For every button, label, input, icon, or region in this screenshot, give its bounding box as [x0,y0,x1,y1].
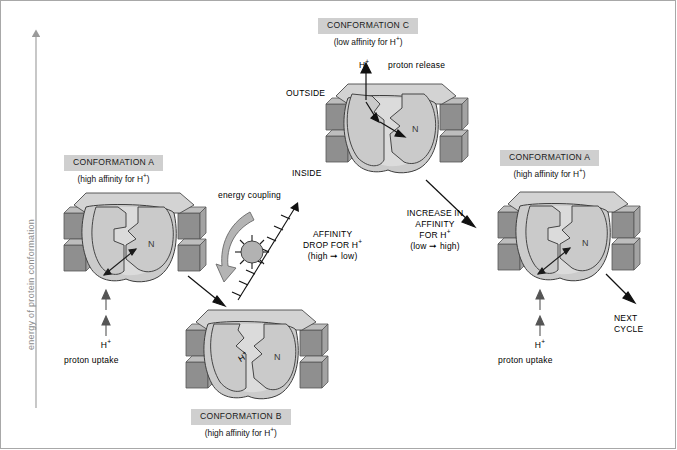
gear-icon [235,235,269,269]
next-cycle-line1: NEXT [614,313,643,324]
binding-site-label: N [274,352,281,362]
arrow-b-to-c [292,195,322,219]
energy-axis-label: energy of protein conformation [26,219,36,350]
proton-charge: + [541,338,545,345]
conformation-c-protein: N [318,74,478,192]
proton-uptake-arrows-right [530,288,550,340]
subtitle-text: (high affinity for H [514,169,579,179]
affinity-increase-text: FOR H [419,230,446,240]
membrane-right [300,324,328,388]
proton-release-caption: proton release [388,60,445,70]
conformation-b-label: CONFORMATION B (high affinity for H+) [191,409,291,438]
conformation-b-subtitle: (high affinity for H+) [191,428,291,438]
subtitle-close: ) [400,37,403,47]
next-cycle-line2: CYCLE [614,324,643,335]
subtitle-close: ) [274,428,277,438]
affinity-increase-line2: AFFINITY [396,219,474,230]
proton-uptake-caption-right: proton uptake [498,355,553,365]
conformation-b-protein: N [178,300,338,418]
subtitle-text: (low affinity for H [334,37,396,47]
affinity-increase-line3: FOR H+ [396,230,474,241]
subtitle-text: (high affinity for H [205,428,270,438]
conformation-b-title: CONFORMATION B [191,409,291,425]
affinity-increase-line4: (low ➞ high) [396,241,474,252]
charge-sup: + [358,238,362,245]
affinity-increase-line1: INCREASE IN [396,208,474,219]
charge-sup: + [447,228,451,235]
conformation-a-right-subtitle: (high affinity for H+) [500,169,599,179]
affinity-drop-text: DROP FOR H [303,240,358,250]
affinity-drop-line1: AFFINITY [303,229,362,240]
affinity-increase-annotation: INCREASE IN AFFINITY FOR H+ (low ➞ high) [396,208,474,252]
next-cycle-label: NEXT CYCLE [614,313,643,335]
subtitle-close: ) [583,169,586,179]
conformation-a-right-label: CONFORMATION A (high affinity for H+) [500,150,599,179]
conformation-a-right-title: CONFORMATION A [500,150,599,166]
conformation-c-label: CONFORMATION C (low affinity for H+) [318,18,418,47]
proton-symbol-left: H+ [92,340,120,350]
conformation-a-left-label: CONFORMATION A (high affinity for H+) [64,155,163,184]
affinity-drop-line3: (high ➞ low) [303,251,362,262]
affinity-drop-line2: DROP FOR H+ [303,240,362,251]
proton-uptake-caption-left: proton uptake [64,355,119,365]
membrane-right [440,98,468,162]
figure-canvas: energy of protein conformation CONFORMAT… [0,0,677,450]
conformation-c-title: CONFORMATION C [318,18,418,34]
energy-coupling-label: energy coupling [218,190,281,200]
binding-site-label: N [148,239,155,249]
proton-charge: + [107,338,111,345]
membrane-right [612,206,640,270]
conformation-c-subtitle: (low affinity for H+) [318,37,418,47]
arrow-next-cycle [604,272,654,316]
affinity-drop-annotation: AFFINITY DROP FOR H+ (high ➞ low) [303,229,362,262]
proton-uptake-arrows-left [96,288,116,340]
membrane-right [178,207,206,271]
proton-symbol-right: H+ [526,340,554,350]
binding-site-label: N [412,124,419,134]
conformation-a-left-title: CONFORMATION A [64,155,163,171]
binding-site-label: N [582,238,589,248]
